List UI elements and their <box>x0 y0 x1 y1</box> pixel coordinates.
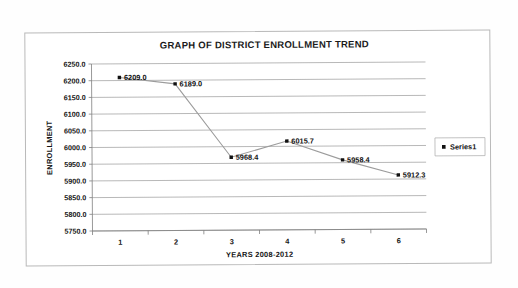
data-point-marker[interactable] <box>341 158 344 161</box>
y-axis-tick-label: 5900.0 <box>64 177 86 186</box>
gridline <box>92 179 426 181</box>
data-point-marker[interactable] <box>285 139 288 142</box>
data-point-marker[interactable] <box>397 173 400 176</box>
data-point-label: 6015.7 <box>291 137 314 146</box>
y-axis-tick-label: 6100.0 <box>64 110 86 119</box>
gridline <box>92 112 426 114</box>
x-axis-tick-label: 6 <box>397 236 401 245</box>
data-point-marker[interactable] <box>173 82 176 85</box>
gridline <box>92 145 426 147</box>
x-axis-tick-label: 4 <box>285 237 290 246</box>
axis-titles-group: YEARS 2008-2012ENROLLMENT <box>45 119 294 260</box>
chart-legend[interactable]: Series1 <box>435 138 485 156</box>
gridline <box>92 129 426 131</box>
y-axis-tick-label: 5850.0 <box>64 193 86 202</box>
gridline <box>92 95 426 97</box>
data-point-label: 6189.0 <box>180 79 203 88</box>
axes-group <box>88 62 426 235</box>
data-point-marker[interactable] <box>118 76 121 79</box>
legend-label-series1[interactable]: Series1 <box>450 142 476 151</box>
x-axis-tick-label: 1 <box>118 238 122 247</box>
data-point-label: 6209.0 <box>124 73 147 82</box>
y-axis-tick-label: 6250.0 <box>63 60 85 69</box>
y-axis-tick-label: 5800.0 <box>64 210 86 219</box>
chart-frame: GRAPH OF DISTRICT ENROLLMENT TREND 6250.… <box>24 30 491 267</box>
y-axis-tick-label: 5950.0 <box>64 160 86 169</box>
gridline <box>92 196 426 198</box>
y-axis-line <box>91 64 92 231</box>
data-point-label: 5958.4 <box>347 155 371 164</box>
x-axis-tick-label: 5 <box>341 236 345 245</box>
gridline <box>92 162 426 164</box>
y-axis-tick-labels: 6250.06200.06150.06100.06050.06000.05950… <box>63 60 86 236</box>
x-axis-tick-label: 3 <box>230 237 234 246</box>
gridline <box>92 212 426 214</box>
y-axis-tick-label: 6200.0 <box>64 76 86 85</box>
data-point-label: 5912.3 <box>403 170 426 179</box>
y-axis-tick-label: 6150.0 <box>64 93 86 102</box>
page-canvas: GRAPH OF DISTRICT ENROLLMENT TREND 6250.… <box>0 0 518 288</box>
chart-plot-area: 6250.06200.06150.06100.06050.06000.05950… <box>25 31 492 268</box>
x-axis-tick-labels: 123456 <box>118 236 401 247</box>
y-axis-title: ENROLLMENT <box>45 120 54 175</box>
y-axis-tick-label: 6050.0 <box>64 126 86 135</box>
x-axis-title: YEARS 2008-2012 <box>226 250 293 259</box>
y-axis-tick-label: 5750.0 <box>64 227 86 236</box>
y-axis-tick-label: 6000.0 <box>64 143 86 152</box>
gridline <box>91 62 425 64</box>
data-point-marker[interactable] <box>230 156 233 159</box>
gridlines-group <box>91 62 426 231</box>
data-point-labels: 6209.06189.05968.46015.75958.45912.3 <box>124 71 426 181</box>
legend-marker-series1 <box>442 145 446 149</box>
data-point-label: 5968.4 <box>236 153 260 162</box>
x-axis-tick-label: 2 <box>174 237 178 246</box>
